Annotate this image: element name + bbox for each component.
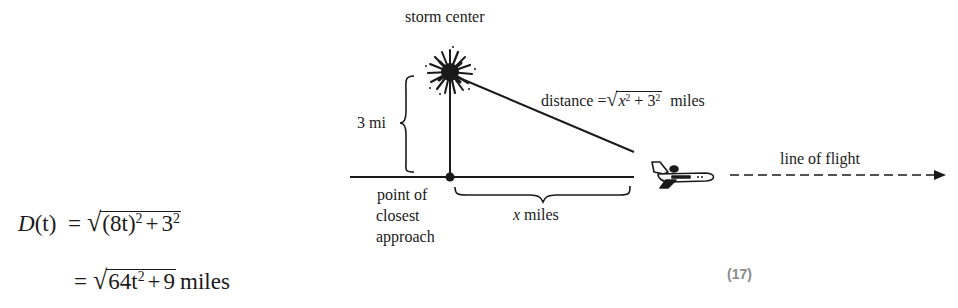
- storm-center-label: storm center: [405, 8, 485, 26]
- distance-prefix: distance =: [541, 92, 606, 109]
- distance-radicand: x2 + 32: [616, 91, 662, 110]
- airplane-icon: [652, 162, 714, 188]
- equation-line-2: =√64t2+9miles: [74, 268, 230, 295]
- equation-line-1: D(t) =√(8t)2+32: [18, 210, 181, 237]
- closest-point-label-line3: approach: [376, 228, 435, 246]
- horizontal-distance-label: x miles: [513, 206, 559, 224]
- radicand: 64t2+9: [106, 269, 176, 293]
- radical-icon: √: [93, 267, 107, 294]
- vertical-brace: [400, 76, 414, 172]
- arrow-right-icon: [934, 170, 946, 180]
- horizontal-brace: [455, 186, 630, 202]
- distance-formula-label: distance =√x2 + 32 miles: [541, 90, 705, 110]
- vertical-distance-label: 3 mi: [357, 114, 386, 132]
- distance-line: [450, 74, 634, 152]
- equation-number: (17): [727, 266, 752, 282]
- closest-point-dot: [446, 173, 455, 182]
- closest-point-label-line1: point of: [377, 186, 427, 204]
- closest-point-label-line2: closest: [376, 207, 420, 225]
- distance-unit: miles: [670, 92, 705, 109]
- line-of-flight-label: line of flight: [780, 150, 860, 168]
- radicand: (8t)2+32: [100, 211, 181, 235]
- radical-icon: √: [87, 209, 101, 236]
